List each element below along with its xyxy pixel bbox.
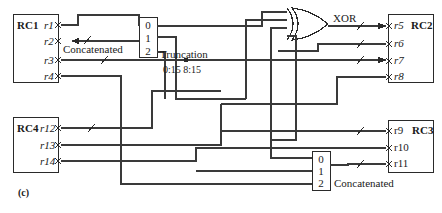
port-label-r11: r11 (394, 158, 408, 169)
port-label-r1: r1 (44, 20, 54, 31)
port-label-r9: r9 (394, 125, 403, 136)
register-label-rc4: RC4 (17, 123, 38, 134)
wire-xor-in-low (287, 36, 296, 127)
wire-mux-bottom-in0 (271, 140, 312, 158)
truncation-label: Truncation (160, 49, 208, 60)
wire-r13-to-r9 (61, 131, 386, 145)
mux-bottom-selector-2[interactable]: 2 (312, 178, 330, 189)
port-label-r2: r2 (44, 36, 54, 47)
figure-caption: (c) (18, 188, 29, 198)
mux-top-selector-0[interactable]: 0 (139, 20, 157, 31)
wire-aux-trunk-b (271, 127, 296, 140)
register-label-rc1: RC1 (17, 20, 38, 31)
port-label-r12: r12 (40, 123, 55, 134)
circuit-diagram-figure: RC1 r1 r2 r3 r4 RC2 r5 r6 r7 r8 RC3 r9 r… (0, 0, 442, 213)
port-label-r7: r7 (394, 55, 404, 66)
wire-mux-top-out-0 (157, 12, 287, 26)
port-label-r6: r6 (394, 38, 404, 49)
register-label-rc2: RC2 (411, 20, 432, 31)
wire-r12-up (61, 91, 221, 128)
arrowhead-r7 (378, 57, 386, 64)
port-label-r4: r4 (44, 71, 54, 82)
port-label-r3: r3 (44, 55, 54, 66)
arrowhead-r5 (378, 23, 386, 30)
mux-bottom-selector-1[interactable]: 1 (312, 166, 330, 177)
wire-mux-bottom-out (330, 164, 386, 165)
port-label-r14: r14 (40, 156, 55, 167)
mux-top-selector-1[interactable]: 1 (139, 33, 157, 44)
port-label-r8: r8 (394, 71, 404, 82)
wire-to-r6 (278, 44, 386, 51)
port-label-r5: r5 (394, 20, 404, 31)
port-label-r10: r10 (394, 142, 409, 153)
mux-bottom-label-concatenated: Concatenated (334, 178, 394, 189)
mux-top-label-concatenated: Concatenated (63, 44, 123, 55)
mux-bottom-selector-0[interactable]: 0 (312, 154, 330, 165)
truncation-bit-ranges: 0:15 8:15 (163, 65, 201, 75)
xor-gate-shape (287, 8, 328, 40)
wire-xor-in-mid (271, 28, 287, 140)
wire-r4-down (61, 76, 312, 184)
xor-gate-label: XOR (333, 13, 356, 24)
port-label-r13: r13 (40, 140, 55, 151)
wire-r1-to-mux-top (61, 15, 139, 26)
wire-r14-to-r10 (61, 148, 386, 161)
mux-top-selector-2[interactable]: 2 (139, 46, 157, 57)
register-label-rc3: RC3 (412, 125, 433, 136)
